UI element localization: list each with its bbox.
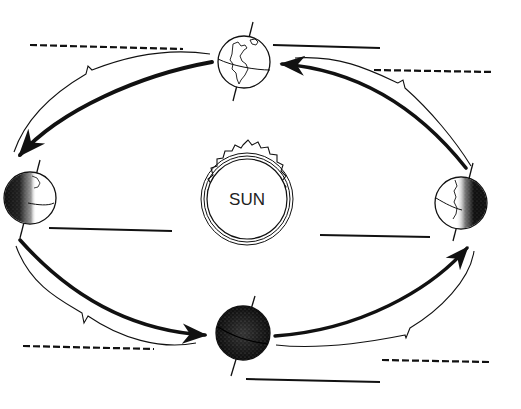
sun: SUN — [201, 140, 293, 245]
orbit-arrow-right-to-top — [282, 64, 466, 168]
orbit-arrow-top-to-left — [20, 62, 212, 155]
blank-line-top-right-solid[interactable] — [273, 45, 380, 48]
earth-right — [435, 163, 487, 241]
orbit-diagram: SUN — [0, 0, 521, 409]
sun-label: SUN — [229, 190, 265, 209]
blank-line-right-solid[interactable] — [320, 235, 430, 237]
blank-line-top-left-dashed[interactable] — [30, 45, 183, 49]
earth-top — [218, 22, 270, 101]
orbit-arrow-left-to-bottom — [20, 240, 205, 335]
bracket-top-right — [295, 58, 471, 166]
blank-line-bottom-right-dashed[interactable] — [382, 360, 489, 362]
earth-left — [4, 160, 56, 238]
blank-line-bottom-solid[interactable] — [246, 379, 380, 382]
earth-bottom — [216, 296, 270, 376]
blank-line-right-top-dashed[interactable] — [374, 70, 493, 72]
blank-line-left-solid[interactable] — [49, 228, 172, 231]
blank-line-bottom-left-dashed[interactable] — [23, 346, 154, 349]
orbit-arrow-bottom-to-right — [275, 248, 467, 336]
